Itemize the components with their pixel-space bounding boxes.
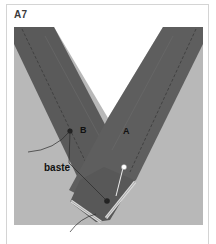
label-a: A [123,126,130,136]
label-baste: baste [44,162,71,173]
label-b: B [80,125,87,135]
